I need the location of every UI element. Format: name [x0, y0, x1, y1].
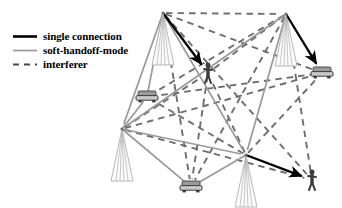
mobile-stations-group: [136, 63, 333, 193]
legend: single connection soft-handoff-mode inte…: [12, 30, 152, 72]
base-station-bottom: [235, 153, 257, 207]
solid-line-icon: [12, 44, 38, 57]
mobile-car-bottom: [180, 181, 202, 192]
interferer-link: [166, 13, 278, 14]
legend-label-interferer: interferer: [43, 58, 88, 71]
legend-item-soft-handoff: soft-handoff-mode: [12, 44, 152, 57]
mobile-car-left: [136, 91, 158, 102]
base-station-top-left: [152, 11, 174, 65]
dashed-line-icon: [12, 58, 38, 71]
mobile-pedestrian-bottom-right: [308, 170, 316, 191]
legend-label-single-connection: single connection: [43, 30, 122, 43]
figure-canvas: single connection soft-handoff-mode inte…: [0, 0, 342, 208]
interferer-link: [192, 76, 207, 179]
mobile-pedestrian-center: [204, 63, 212, 84]
mobile-car-right: [311, 67, 333, 78]
soft-handoff-link: [196, 155, 246, 184]
single-connection-link: [246, 155, 302, 176]
legend-label-soft-handoff: soft-handoff-mode: [43, 44, 128, 57]
legend-item-interferer: interferer: [12, 58, 152, 71]
legend-item-single-connection: single connection: [12, 30, 152, 43]
solid-line-icon: [12, 30, 38, 43]
